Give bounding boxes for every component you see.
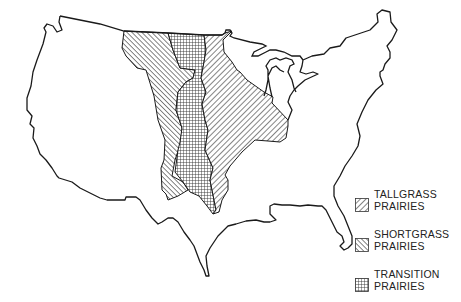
legend-label-line1: TALLGRASS [374,188,437,200]
legend-item-transition: TRANSITION PRAIRIES [355,268,461,302]
tallgrass-swatch-icon [355,198,369,212]
legend-label-line1: SHORTGRASS [374,228,449,240]
great-lakes [264,58,296,97]
legend-label-line1: TRANSITION [374,268,440,280]
legend-label-line2: PRAIRIES [374,240,449,252]
legend-item-shortgrass: SHORTGRASS PRAIRIES [355,228,461,268]
legend-label-line2: PRAIRIES [374,280,440,292]
legend-item-tallgrass: TALLGRASS PRAIRIES [355,188,461,228]
legend: TALLGRASS PRAIRIES SHORTGRASS PRAIRIES T… [355,188,461,302]
legend-label-line2: PRAIRIES [374,200,437,212]
shortgrass-swatch-icon [355,238,369,252]
transition-swatch-icon [355,278,369,292]
